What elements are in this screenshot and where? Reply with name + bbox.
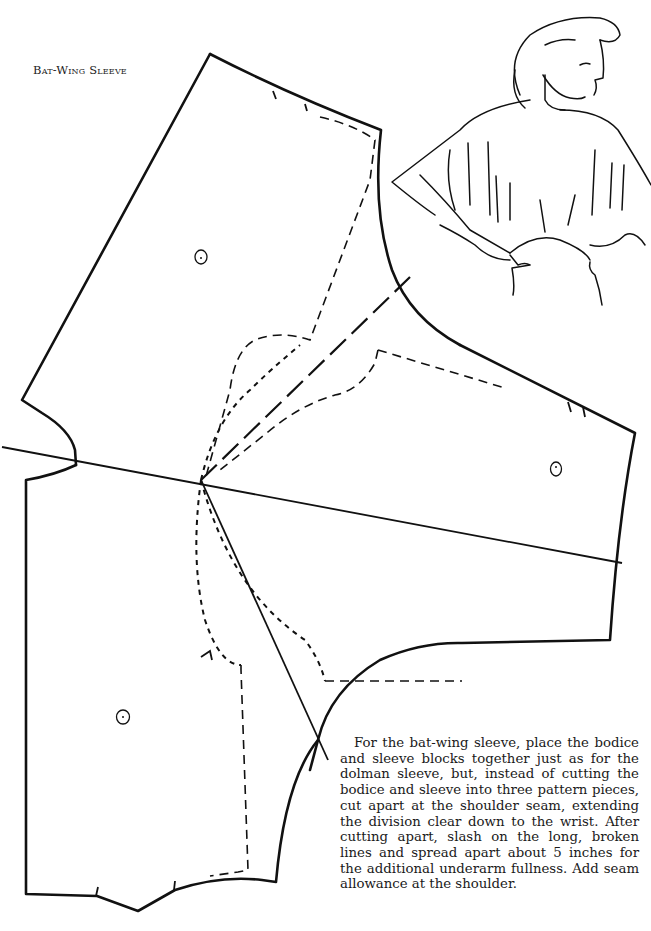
fashion-illustration [392, 18, 651, 305]
slash-line-lower [201, 480, 328, 760]
slash-line-upper [201, 277, 410, 480]
instruction-paragraph: For the bat-wing sleeve, place the bodic… [340, 735, 639, 892]
grain-marker-icon [551, 462, 562, 476]
bodice-front-piece [26, 465, 325, 911]
bodice-back-piece [22, 54, 460, 480]
sleeve-piece [220, 345, 635, 770]
shoulder-line [2, 447, 622, 563]
